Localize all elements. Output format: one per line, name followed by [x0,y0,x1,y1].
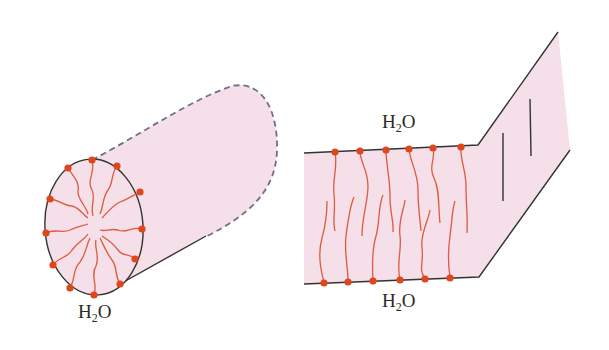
label-h: H [78,301,92,322]
label-h: H [382,111,396,132]
bilayer-sheet [304,32,570,284]
bilayer-top-water-label: H2O [382,112,415,131]
micelle-water-label: H2O [78,302,111,321]
label-h: H [382,290,396,311]
label-o: O [402,111,416,132]
fold-mark [530,99,531,156]
label-o: O [98,301,112,322]
lipid-assembly-diagram: H2O H2O H2O [0,0,609,350]
label-o: O [402,290,416,311]
lipid-bilayer [304,32,570,287]
bilayer-bottom-water-label: H2O [382,291,415,310]
cylindrical-micelle [40,85,277,298]
